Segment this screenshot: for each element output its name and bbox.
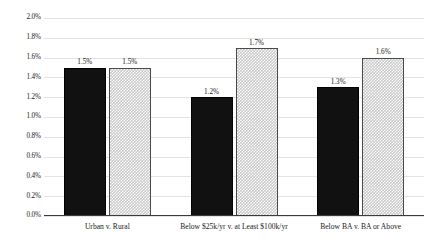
y-axis-tick-label: 1.6% (1, 54, 41, 61)
y-axis-tick-label: 2.0% (1, 14, 41, 21)
bar-value-label: 1.7% (249, 40, 264, 47)
y-axis-tick-label: 0.6% (1, 153, 41, 160)
y-axis-tick-label: 0.8% (1, 133, 41, 140)
x-axis-line (44, 215, 424, 216)
bar: 1.5% (109, 68, 151, 217)
bar: 1.7% (236, 48, 278, 216)
bar: 1.2% (191, 97, 233, 216)
bar-value-label: 1.3% (331, 79, 346, 86)
plot-area: 1.5%1.5%1.2%1.7%1.3%1.6% (44, 18, 424, 216)
y-axis-tick-label: 1.4% (1, 74, 41, 81)
bar-value-label: 1.5% (77, 59, 92, 66)
gridline (44, 18, 424, 19)
bar-value-label: 1.5% (122, 59, 137, 66)
bar-value-label: 1.2% (204, 89, 219, 96)
y-axis-tick-label: 0.2% (1, 193, 41, 200)
bar-value-label: 1.6% (376, 49, 391, 56)
y-axis-tick-label: 1.0% (1, 113, 41, 120)
y-axis-tick-label: 0.0% (1, 212, 41, 219)
y-axis-tick-label: 1.2% (1, 94, 41, 101)
bar: 1.3% (317, 87, 359, 216)
bar: 1.6% (362, 58, 404, 216)
y-axis-tick-label: 1.8% (1, 34, 41, 41)
gridline (44, 38, 424, 39)
y-axis-tick-label: 0.4% (1, 173, 41, 180)
bar: 1.5% (64, 68, 106, 217)
y-axis: 0.0%0.2%0.4%0.6%0.8%1.0%1.2%1.4%1.6%1.8%… (0, 18, 41, 216)
bar-chart: 0.0%0.2%0.4%0.6%0.8%1.0%1.2%1.4%1.6%1.8%… (0, 0, 441, 242)
x-axis-category-label: Below BA v. BA or Above (277, 222, 441, 231)
